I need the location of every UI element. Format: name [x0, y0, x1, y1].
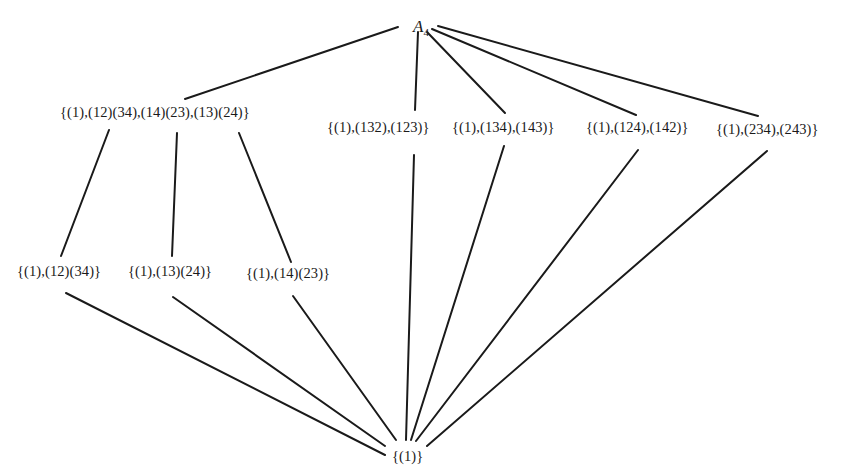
node-cyclic2-12-34: {(1),(12)(34)} [17, 264, 101, 279]
node-trivial-subgroup: {(1)} [392, 449, 423, 464]
node-klein-four-subgroup: {(1),(12)(34),(14)(23),(13)(24)} [60, 105, 250, 120]
edge-C2b-E [173, 297, 385, 446]
edge-C3d-E [427, 151, 767, 446]
edge-C2a-E [66, 293, 385, 455]
node-cyclic2-14-23: {(1),(14)(23)} [246, 266, 330, 281]
lattice-edges [0, 0, 842, 469]
edge-C3a-E [406, 155, 414, 440]
node-a4-label: A [413, 17, 423, 36]
edge-A4-V4 [185, 27, 398, 99]
edge-C3b-E [411, 146, 504, 440]
node-cyclic2-13-24: {(1),(13)(24)} [128, 264, 212, 279]
node-a4: A4 [413, 18, 429, 38]
edge-A4-C3d [438, 26, 758, 116]
edge-V4-C2b [172, 133, 177, 256]
node-cyclic3-134: {(1),(134),(143)} [452, 120, 555, 135]
node-cyclic3-124: {(1),(124),(142)} [586, 120, 689, 135]
edge-V4-C2c [239, 133, 291, 262]
edge-A4-C3c [432, 29, 636, 115]
node-a4-subscript: 4 [423, 26, 429, 38]
edge-V4-C2a [61, 130, 109, 256]
edge-C3c-E [416, 150, 638, 441]
edge-A4-C3a [415, 32, 418, 110]
node-cyclic3-132: {(1),(132),(123)} [327, 120, 430, 135]
node-cyclic3-234: {(1),(234),(243)} [716, 122, 819, 137]
